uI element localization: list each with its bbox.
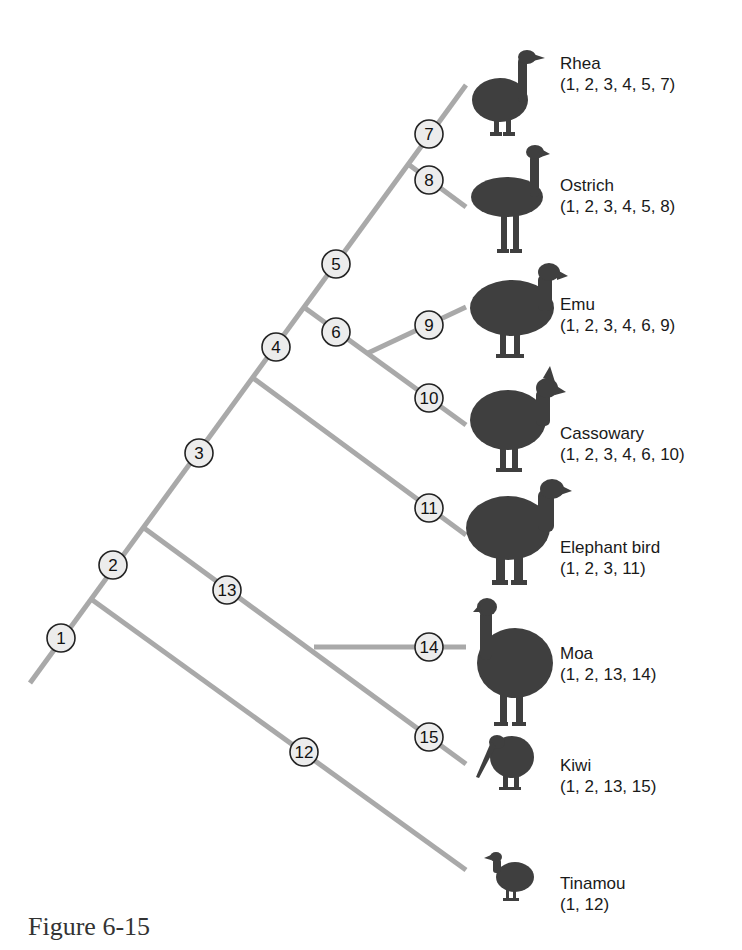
taxon-name: Ostrich: [560, 175, 675, 196]
node-label: 13: [218, 581, 237, 600]
taxon-elephant-bird: Elephant bird (1, 2, 3, 11): [560, 537, 660, 579]
taxon-ostrich: Ostrich (1, 2, 3, 4, 5, 8): [560, 175, 675, 217]
character-node-2: 2: [99, 551, 127, 579]
taxon-cassowary: Cassowary (1, 2, 3, 4, 6, 10): [560, 423, 685, 465]
character-node-5: 5: [322, 250, 350, 278]
ostrich-silhouette-icon: [471, 145, 550, 253]
character-node-8: 8: [415, 166, 443, 194]
node-label: 7: [424, 125, 433, 144]
character-node-1: 1: [47, 624, 75, 652]
taxon-characters: (1, 2, 3, 4, 5, 8): [560, 196, 675, 217]
cladogram: 1 2 3 4 5 6 7 8 9 10 11 12 13 14 15: [0, 0, 742, 950]
character-node-11: 11: [415, 494, 443, 522]
taxon-name: Rhea: [560, 53, 675, 74]
branch-trunk: [30, 85, 466, 683]
character-node-14: 14: [415, 633, 443, 661]
node-label: 4: [271, 338, 280, 357]
character-node-3: 3: [185, 439, 213, 467]
taxon-emu: Emu (1, 2, 3, 4, 6, 9): [560, 294, 675, 336]
taxon-name: Cassowary: [560, 423, 685, 444]
character-node-6: 6: [322, 318, 350, 346]
emu-silhouette-icon: [470, 263, 568, 358]
character-node-7: 7: [415, 120, 443, 148]
character-node-15: 15: [415, 723, 443, 751]
node-label: 15: [420, 728, 439, 747]
taxon-name: Moa: [560, 643, 656, 664]
taxon-characters: (1, 2, 13, 15): [560, 776, 656, 797]
node-label: 5: [331, 255, 340, 274]
node-label: 10: [420, 389, 439, 408]
character-node-4: 4: [262, 333, 290, 361]
character-node-13: 13: [213, 576, 241, 604]
node-label: 11: [420, 499, 438, 518]
taxon-characters: (1, 2, 3, 4, 5, 7): [560, 74, 675, 95]
node-label: 2: [108, 556, 117, 575]
taxon-kiwi: Kiwi (1, 2, 13, 15): [560, 755, 656, 797]
taxon-characters: (1, 2, 3, 11): [560, 558, 660, 579]
taxon-tinamou: Tinamou (1, 12): [560, 873, 626, 915]
cassowary-silhouette-icon: [470, 366, 566, 472]
node-label: 8: [424, 171, 433, 190]
node-label: 6: [331, 323, 340, 342]
node-label: 1: [56, 629, 65, 648]
kiwi-silhouette-icon: [476, 735, 534, 790]
figure-caption: Figure 6-15: [28, 912, 150, 942]
node-label: 14: [420, 638, 439, 657]
node-label: 9: [424, 316, 433, 335]
node-label: 12: [295, 743, 314, 762]
taxon-name: Kiwi: [560, 755, 656, 776]
taxon-characters: (1, 12): [560, 894, 626, 915]
taxon-moa: Moa (1, 2, 13, 14): [560, 643, 656, 685]
taxon-name: Elephant bird: [560, 537, 660, 558]
rhea-silhouette-icon: [472, 50, 545, 136]
tinamou-silhouette-icon: [484, 852, 534, 901]
taxon-name: Tinamou: [560, 873, 626, 894]
taxon-characters: (1, 2, 13, 14): [560, 664, 656, 685]
node-label: 3: [194, 444, 203, 463]
elephant-bird-silhouette-icon: [466, 479, 572, 585]
moa-silhouette-icon: [473, 598, 553, 726]
taxon-characters: (1, 2, 3, 4, 6, 10): [560, 444, 685, 465]
character-node-9: 9: [415, 311, 443, 339]
character-node-10: 10: [415, 384, 443, 412]
character-node-12: 12: [290, 738, 318, 766]
taxon-name: Emu: [560, 294, 675, 315]
taxon-rhea: Rhea (1, 2, 3, 4, 5, 7): [560, 53, 675, 95]
branch-tinamou: [91, 599, 466, 870]
taxon-characters: (1, 2, 3, 4, 6, 9): [560, 315, 675, 336]
